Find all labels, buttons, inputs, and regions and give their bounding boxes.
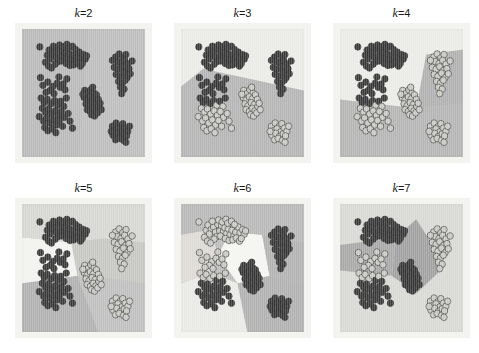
data-point [444, 298, 450, 305]
title-k-value: =7 [398, 182, 411, 194]
data-point [369, 265, 375, 272]
data-point [355, 249, 361, 256]
data-point [387, 300, 393, 307]
data-point [385, 293, 391, 300]
panel-title-k7: k=7 [333, 181, 470, 196]
data-point [441, 314, 447, 321]
data-point [441, 308, 447, 315]
data-point [380, 261, 386, 268]
data-point [397, 235, 403, 242]
data-point [440, 252, 446, 259]
data-point [427, 232, 433, 239]
data-point [355, 219, 361, 226]
data-point [381, 270, 387, 277]
data-point [382, 251, 388, 258]
panel-k7: k=7 [0, 0, 479, 353]
plot-area-k7 [340, 204, 463, 332]
data-point [374, 249, 380, 256]
data-point [371, 304, 377, 311]
data-point [390, 221, 396, 228]
data-point [377, 298, 383, 305]
data-point [398, 266, 404, 273]
data-point [401, 228, 407, 235]
data-point [366, 240, 372, 247]
data-point [408, 259, 414, 266]
data-point [436, 265, 442, 272]
kmeans-figure: k=2k=3k=4k=5k=6k=7 [0, 0, 479, 353]
data-point [447, 233, 453, 240]
data-point [415, 275, 421, 282]
data-point [383, 285, 389, 292]
data-point [416, 281, 422, 288]
data-point [368, 218, 374, 225]
data-point [361, 264, 367, 271]
data-point [445, 245, 451, 252]
data-point [426, 303, 432, 310]
